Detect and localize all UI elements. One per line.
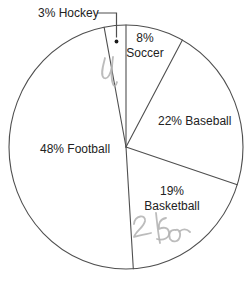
label-hockey: 3% Hockey	[38, 6, 99, 21]
label-soccer-name: Soccer	[126, 46, 163, 61]
label-basketball-name: Basketball	[144, 199, 199, 214]
label-football: 48% Football	[40, 142, 110, 157]
label-soccer-percent: 8%	[126, 31, 163, 46]
hockey-marker-dot	[115, 40, 119, 44]
label-basketball: 19% Basketball	[144, 184, 199, 214]
pie-chart-figure: 3% Hockey 8% Soccer 22% Baseball 48% Foo…	[0, 0, 252, 281]
label-basketball-percent: 19%	[144, 184, 199, 199]
label-soccer: 8% Soccer	[126, 31, 163, 61]
label-baseball: 22% Baseball	[158, 114, 231, 129]
